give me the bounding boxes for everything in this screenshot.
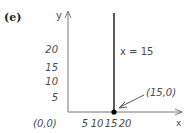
point-marker xyxy=(111,109,116,114)
y-tick-20: 20 xyxy=(45,44,58,55)
x-tick-15: 15 xyxy=(105,118,118,129)
y-tick-15: 15 xyxy=(45,62,58,73)
origin-label: (0,0) xyxy=(33,118,57,129)
point-label: (15,0) xyxy=(146,87,176,98)
graph-figure: (e) y x 20 15 10 5 (0,0) 5 10 15 20 x = … xyxy=(0,0,188,133)
y-tick-10: 10 xyxy=(45,76,58,87)
y-axis-label: y xyxy=(56,10,62,21)
x-tick-10: 10 xyxy=(91,118,104,129)
y-tick-5: 5 xyxy=(52,92,58,103)
x-tick-20: 20 xyxy=(119,118,132,129)
line-label: x = 15 xyxy=(120,46,153,57)
panel-label: (e) xyxy=(4,11,21,24)
point-callout-arrow xyxy=(120,95,144,107)
x-tick-5: 5 xyxy=(82,118,88,129)
x-axis-label: x xyxy=(176,118,182,128)
